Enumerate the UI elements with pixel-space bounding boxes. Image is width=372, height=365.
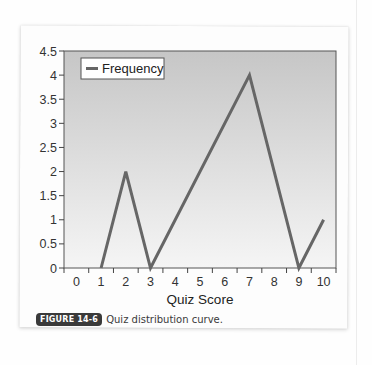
x-tick-label: 6 (221, 275, 228, 289)
x-tick-label: 1 (98, 275, 105, 289)
y-tick-label: 2.5 (40, 141, 57, 155)
y-tick-label: 4.5 (40, 45, 57, 59)
plot-area (64, 51, 336, 268)
x-tick-label: 7 (246, 275, 253, 289)
x-tick-label: 9 (295, 275, 302, 289)
x-axis: 012345678910 (64, 268, 336, 289)
figure-caption: FIGURE 14-6 Quiz distribution curve. (36, 313, 223, 326)
x-tick-label: 0 (73, 275, 80, 289)
x-tick-label: 8 (271, 275, 278, 289)
y-tick-label: 0 (50, 262, 57, 276)
y-tick-label: 4 (50, 69, 57, 83)
y-axis: 00.511.522.533.544.5 (40, 45, 64, 276)
y-tick-label: 3.5 (40, 93, 57, 107)
y-tick-label: 3 (50, 117, 57, 131)
legend: Frequency (81, 58, 164, 79)
x-tick-label: 4 (172, 275, 179, 289)
x-tick-label: 10 (317, 275, 331, 289)
caption-text: Quiz distribution curve. (106, 314, 223, 325)
legend-label: Frequency (102, 61, 164, 76)
x-tick-label: 2 (122, 275, 129, 289)
y-tick-label: 1 (50, 213, 57, 227)
x-tick-label: 3 (147, 275, 154, 289)
y-tick-label: 1.5 (40, 189, 57, 203)
x-axis-title: Quiz Score (167, 292, 234, 307)
y-tick-label: 2 (50, 165, 57, 179)
figure-badge: FIGURE 14-6 (36, 313, 102, 326)
y-tick-label: 0.5 (40, 237, 57, 251)
line-chart: 00.511.522.533.544.5 012345678910 Freque… (0, 0, 372, 365)
page: 00.511.522.533.544.5 012345678910 Freque… (0, 0, 372, 365)
x-tick-label: 5 (197, 275, 204, 289)
